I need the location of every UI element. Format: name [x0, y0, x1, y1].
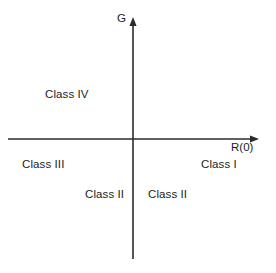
y-axis-arrowhead	[129, 17, 136, 26]
coordinate-axes	[0, 0, 276, 273]
region-label-class-iv: Class IV	[45, 89, 89, 101]
region-label-class-ii-right: Class II	[148, 189, 187, 201]
class-quadrant-diagram: G R(0) Class IV Class III Class I Class …	[0, 0, 276, 273]
y-axis	[129, 17, 136, 259]
region-label-class-i: Class I	[201, 159, 237, 171]
x-axis-label: R(0)	[231, 142, 253, 154]
y-axis-label: G	[117, 13, 126, 25]
region-label-class-iii: Class III	[22, 159, 64, 171]
region-label-class-ii-left: Class II	[85, 189, 124, 201]
